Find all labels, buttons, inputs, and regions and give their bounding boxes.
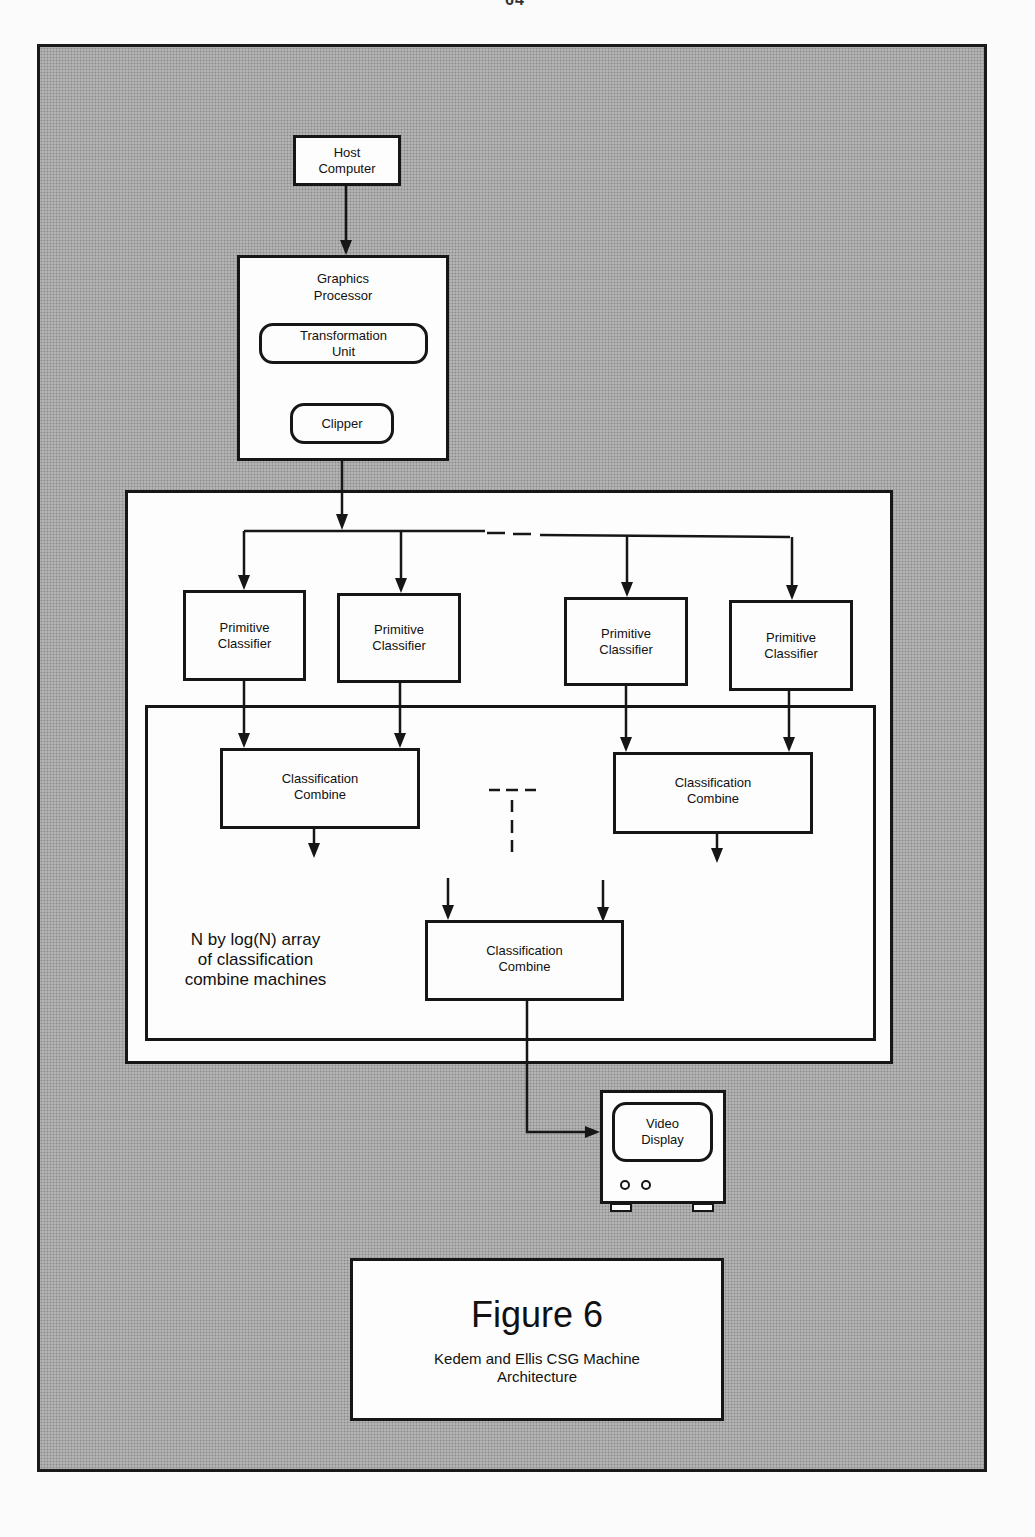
transformation-unit-box: Transformation Unit (259, 323, 428, 364)
classification-combine-line1: Classification (675, 775, 752, 791)
primitive-classifier-box: Primitive Classifier (337, 593, 461, 683)
video-display-screen: Video Display (612, 1102, 713, 1162)
classification-combine-line2: Combine (498, 959, 550, 975)
primitive-classifier-line1: Primitive (220, 620, 270, 636)
clipper-label: Clipper (321, 416, 362, 432)
primitive-classifier-box: Primitive Classifier (729, 600, 853, 691)
host-computer-label-line2: Computer (318, 161, 375, 177)
figure-subtitle: Kedem and Ellis CSG Machine Architecture (434, 1350, 640, 1386)
primitive-classifier-line1: Primitive (374, 622, 424, 638)
array-description-line3: combine machines (168, 970, 343, 990)
monitor-foot-icon (610, 1203, 632, 1212)
knob-icon (620, 1180, 630, 1190)
primitive-classifier-line2: Classifier (218, 636, 271, 652)
graphics-processor-title: Graphics Processor (240, 270, 446, 304)
primitive-classifier-box: Primitive Classifier (564, 597, 688, 686)
monitor-foot-icon (692, 1203, 714, 1212)
array-description: N by log(N) array of classification comb… (168, 930, 343, 990)
transformation-unit-line2: Unit (332, 344, 355, 360)
primitive-classifier-line2: Classifier (599, 642, 652, 658)
classification-combine-line1: Classification (282, 771, 359, 787)
video-display-line2: Display (641, 1132, 684, 1148)
classification-combine-box: Classification Combine (220, 748, 420, 829)
figure-subtitle-line1: Kedem and Ellis CSG Machine (434, 1350, 640, 1368)
classification-combine-box: Classification Combine (425, 920, 624, 1001)
graphics-processor-title-line2: Processor (240, 287, 446, 304)
knob-icon (641, 1180, 651, 1190)
graphics-processor-title-line1: Graphics (240, 270, 446, 287)
primitive-classifier-line2: Classifier (372, 638, 425, 654)
clipper-box: Clipper (290, 403, 394, 444)
array-description-line1: N by log(N) array (168, 930, 343, 950)
host-computer-box: Host Computer (293, 135, 401, 186)
host-computer-label-line1: Host (334, 145, 361, 161)
figure-title: Figure 6 (471, 1294, 603, 1336)
primitive-classifier-line1: Primitive (766, 630, 816, 646)
primitive-classifier-box: Primitive Classifier (183, 590, 306, 681)
primitive-classifier-line1: Primitive (601, 626, 651, 642)
figure-subtitle-line2: Architecture (434, 1368, 640, 1386)
primitive-classifier-line2: Classifier (764, 646, 817, 662)
classification-combine-box: Classification Combine (613, 752, 813, 834)
classification-combine-line2: Combine (294, 787, 346, 803)
video-display-monitor-icon: Video Display (600, 1090, 726, 1204)
classification-combine-line2: Combine (687, 791, 739, 807)
classification-combine-line1: Classification (486, 943, 563, 959)
transformation-unit-line1: Transformation (300, 328, 387, 344)
array-description-line2: of classification (168, 950, 343, 970)
figure-caption-box: Figure 6 Kedem and Ellis CSG Machine Arc… (350, 1258, 724, 1421)
video-display-line1: Video (646, 1116, 679, 1132)
